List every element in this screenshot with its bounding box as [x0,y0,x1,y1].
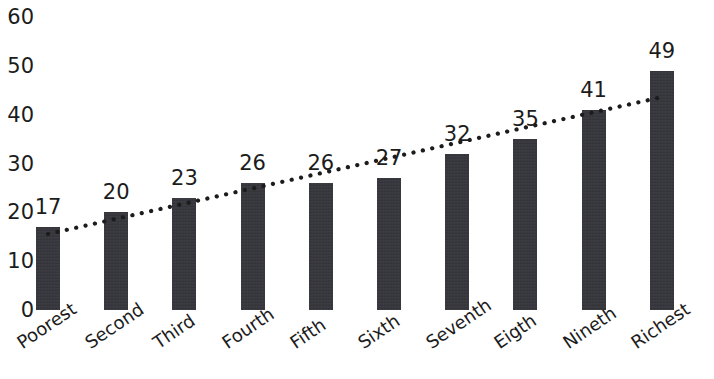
bar [445,154,469,310]
bar-value-label: 35 [512,109,539,130]
bar [36,227,60,310]
bar-value-label: 32 [444,124,471,145]
x-axis-category-label: Fourth [219,305,277,352]
bar-value-label: 26 [239,153,266,174]
y-axis-tick-label: 40 [0,104,34,125]
bar-value-label: 27 [376,148,403,169]
bar [582,110,606,310]
x-axis-category-label: Third [150,311,198,352]
y-axis: 0102030405060 [0,0,34,379]
y-axis-tick-label: 60 [0,7,34,28]
x-axis-category-label: Sixth [355,312,403,352]
y-axis-tick-label: 20 [0,202,34,223]
x-axis-category-label: Nineth [560,304,619,352]
y-axis-tick-label: 30 [0,153,34,174]
x-axis-category-label: Eigth [491,311,539,352]
bar [377,178,401,310]
bar [104,212,128,310]
bar [650,71,674,310]
y-axis-tick-label: 50 [0,56,34,77]
plot-area: 0102030405060 17202326262732354149 Poore… [0,0,714,379]
x-axis-category-label: Fifth [287,315,329,351]
bar [172,198,196,310]
bar [309,183,333,310]
bar [241,183,265,310]
bar-value-label: 20 [103,182,130,203]
bar-value-label: 17 [35,197,62,218]
bar-value-label: 41 [580,80,607,101]
bar-value-label: 49 [648,41,675,62]
bar [513,139,537,310]
bar-value-label: 23 [171,168,198,189]
bar-value-label: 26 [307,153,334,174]
chart-figure: 0102030405060 17202326262732354149 Poore… [0,0,714,379]
y-axis-tick-label: 0 [0,300,34,321]
y-axis-tick-label: 10 [0,251,34,272]
